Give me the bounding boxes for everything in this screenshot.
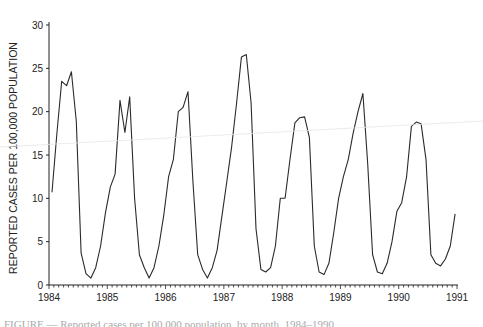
y-tick-label: 10 [32,193,44,204]
x-tick-label: 1984 [38,292,61,303]
y-tick-label: 5 [37,236,43,247]
x-tick-label: 1986 [154,292,177,303]
y-tick-label: 25 [32,63,44,74]
x-tick-label: 1991 [446,292,469,303]
x-tick-label: 1988 [271,292,294,303]
x-tick-label: 1989 [329,292,352,303]
data-line [52,55,455,279]
y-tick-label: 20 [32,106,44,117]
x-tick-label: 1985 [96,292,119,303]
x-tick-label: 1987 [213,292,236,303]
y-tick-label: 30 [32,20,44,31]
y-axis-label: REPORTED CASES PER 100,000 POPULATION [7,42,19,274]
figure-caption: FIGURE — Reported cases per 100,000 popu… [4,316,483,327]
line-chart: 051015202530 198419851986198719881989199… [0,0,483,327]
y-tick-label: 0 [37,280,43,291]
y-tick-label: 15 [32,150,44,161]
x-axis-ticks: 19841985198619871988198919901991 [38,285,469,303]
x-tick-label: 1990 [388,292,411,303]
y-axis-ticks: 051015202530 [32,20,49,291]
